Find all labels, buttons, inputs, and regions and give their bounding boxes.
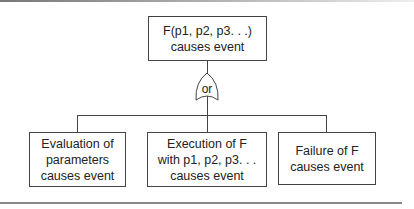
bottom-rule	[0, 202, 402, 204]
child-3-line-2: causes event	[290, 159, 364, 175]
child-event-box-execution: Execution of F with p1, p2, p3. . . caus…	[147, 132, 267, 187]
child-2-line-1: Execution of F	[167, 136, 247, 152]
child-event-box-evaluation: Evaluation of parameters causes event	[29, 132, 126, 187]
connector-gate-to-bus	[207, 96, 208, 115]
child-2-line-3: causes event	[170, 168, 244, 184]
connector-bus-right	[326, 115, 327, 132]
child-1-line-2: parameters	[46, 152, 109, 168]
child-event-box-failure: Failure of F causes event	[278, 132, 376, 185]
child-3-line-1: Failure of F	[295, 143, 358, 159]
connector-bus-middle	[207, 115, 208, 132]
child-1-line-1: Evaluation of	[41, 136, 113, 152]
child-1-line-3: causes event	[41, 168, 115, 184]
horizontal-bus	[77, 115, 327, 116]
child-2-line-2: with p1, p2, p3. . .	[158, 152, 257, 168]
connector-bus-left	[77, 115, 78, 132]
or-gate-label: or	[202, 82, 213, 96]
